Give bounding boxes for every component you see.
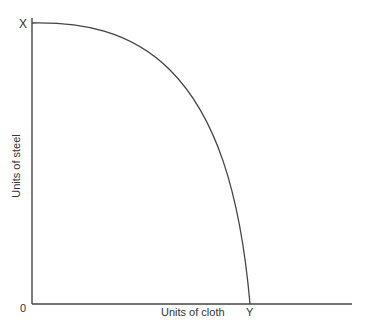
x-axis-label: Units of cloth [161,306,225,318]
frontier-curve [32,23,250,304]
ppf-diagram [0,0,372,333]
origin-label: 0 [20,302,26,314]
y-axis-label: Units of steel [10,134,22,198]
x-intercept-label: Y [246,306,253,318]
y-intercept-label: X [19,17,27,31]
